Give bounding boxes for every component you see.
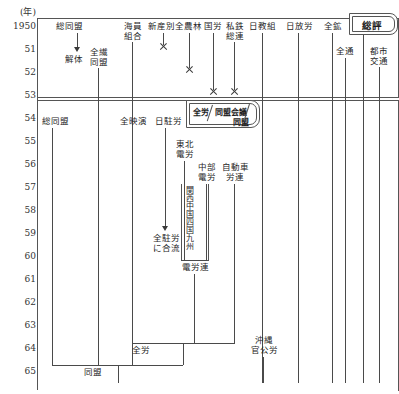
year-tick-51: 51 xyxy=(25,45,36,54)
label-zenchuro-goryu: 全駐労 に合流 xyxy=(148,234,184,253)
label-jidosha-roren: 自動車 労連 xyxy=(222,163,248,182)
line-zeneien xyxy=(132,128,133,343)
label-shitetsu-soren: 私鉄総連 xyxy=(224,22,246,41)
year-tick-64: 64 xyxy=(25,344,36,353)
zenro-domei-badge: 全労 同盟会議 同盟 xyxy=(186,100,260,128)
line-zensen-domei xyxy=(98,68,99,365)
label-chubu-denro-text: 中部 電労 xyxy=(198,162,216,182)
line-sodomei-1954 xyxy=(52,128,53,365)
label-toshi-kotsu-text: 都市交通 xyxy=(370,46,388,66)
line-zentsu xyxy=(345,58,346,383)
label-nichuro: 日駐労 xyxy=(155,117,182,127)
zenro-label-c: 同盟 xyxy=(233,116,249,127)
arrowhead-sodomei-dissolve xyxy=(74,47,80,52)
line-nihoro xyxy=(298,33,299,383)
label-kokuro: 国労 xyxy=(204,22,222,32)
label-tohoku-denro-text: 東北 電労 xyxy=(176,139,194,159)
line-okinawa-kankoro xyxy=(263,357,264,383)
year-tick-65: 65 xyxy=(25,367,36,376)
year-tick-56: 56 xyxy=(25,160,36,169)
year-tick-57: 57 xyxy=(25,183,36,192)
label-zentsu: 全通 xyxy=(336,47,354,57)
label-jidosha-roren-text: 自動車 労連 xyxy=(222,162,249,182)
label-zenro-merge: 全労 xyxy=(132,346,150,356)
line-zennorin xyxy=(189,33,190,68)
label-domei-merge: 同盟 xyxy=(84,368,102,378)
line-nichuro xyxy=(165,128,166,228)
arrowhead-nichuro-merge xyxy=(162,226,168,231)
label-zenko: 全鉱 xyxy=(324,22,342,32)
line-tanro xyxy=(363,33,364,383)
label-nikkyoso: 日教組 xyxy=(249,22,276,32)
year-tick-59: 59 xyxy=(25,229,36,238)
year-tick-63: 63 xyxy=(25,321,36,330)
label-sodomei-1954: 総同盟 xyxy=(42,117,69,127)
union-history-diagram: (年) 1950 51 52 53 54 55 56 57 58 59 60 6… xyxy=(0,0,399,394)
line-shitetsu-soren xyxy=(234,42,235,90)
year-tick-52: 52 xyxy=(25,68,36,77)
label-zeneien: 全映演 xyxy=(120,117,147,127)
label-okinawa-kankoro-text: 沖縄 官公労 xyxy=(251,335,278,355)
year-axis: (年) 1950 51 52 53 54 55 56 57 58 59 60 6… xyxy=(0,0,38,394)
axis-caption: (年) xyxy=(20,8,36,17)
line-domei-merge-down xyxy=(118,365,119,383)
label-zennorin: 全農林 xyxy=(175,22,202,32)
label-denroren: 電労連 xyxy=(182,263,209,273)
label-shitetsu-soren-text: 私鉄総連 xyxy=(226,21,244,41)
zenro-label-a: 全労 xyxy=(193,106,209,117)
year-tick-55: 55 xyxy=(25,137,36,146)
label-kaitai: 解体 xyxy=(65,55,83,65)
denroren-merge-bracket xyxy=(181,260,207,261)
label-chubu-denro: 中部 電労 xyxy=(196,163,218,182)
label-okinawa-kankoro: 沖縄 官公労 xyxy=(251,336,277,355)
x-terminator-kokuro xyxy=(209,87,218,96)
sohyo-label: 総評 xyxy=(362,18,382,32)
label-sodomei-top: 総同盟 xyxy=(56,22,83,32)
year-tick-62: 62 xyxy=(25,298,36,307)
label-kansai-region: 関西中国四国九州 xyxy=(184,186,194,256)
year-tick-60: 60 xyxy=(25,252,36,261)
label-zensen-domei: 全繊同盟 xyxy=(89,48,109,67)
year-tick-58: 58 xyxy=(25,206,36,215)
line-kokuro xyxy=(213,33,214,90)
label-zensen-domei-text: 全繊同盟 xyxy=(90,47,108,67)
x-terminator-shinsanbetsu xyxy=(159,42,168,51)
line-nikkyoso xyxy=(262,33,263,383)
year-tick-53: 53 xyxy=(25,91,36,100)
line-jidosha-roren xyxy=(234,184,235,343)
line-toshi-kotsu xyxy=(379,67,380,383)
line-zenro-merge-down xyxy=(183,343,184,365)
x-terminator-zennorin xyxy=(185,65,194,74)
year-tick-1950: 1950 xyxy=(13,22,36,31)
label-zenchuro-goryu-text: 全駐労 に合流 xyxy=(153,233,180,253)
label-kaiin-kumiai: 海員組合 xyxy=(122,22,144,41)
label-tohoku-denro: 東北 電労 xyxy=(174,140,196,159)
year-tick-61: 61 xyxy=(25,275,36,284)
label-kaiin-kumiai-text: 海員組合 xyxy=(124,21,142,41)
label-shinsanbetsu: 新産別 xyxy=(148,22,175,32)
line-zenko xyxy=(332,33,333,383)
year-tick-54: 54 xyxy=(25,114,36,123)
label-toshi-kotsu: 都市交通 xyxy=(368,47,390,66)
sohyo-badge: 総評 xyxy=(349,13,398,35)
x-terminator-shitetsu-soren xyxy=(230,87,239,96)
line-denroren xyxy=(194,274,195,343)
label-nihoro: 日放労 xyxy=(286,22,313,32)
